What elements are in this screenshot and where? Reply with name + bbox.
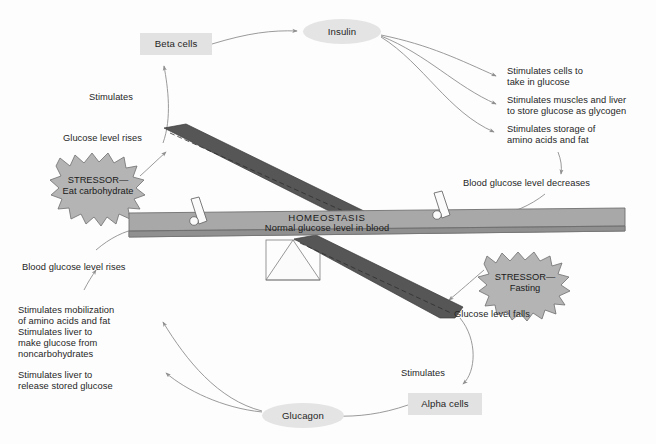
glucagon-effect-2-line2: release stored glucose xyxy=(18,381,113,393)
label-glucose-level-rises: Glucose level rises xyxy=(63,133,142,145)
insulin-effect-2-line2: to store glucose as glycogen xyxy=(507,106,626,118)
insulin-effect-1-line2: take in glucose xyxy=(507,77,570,89)
glucagon-effect-1-line4: make glucose from xyxy=(18,338,97,350)
stressor-carbohydrate-line1: STRESSOR— xyxy=(48,175,148,186)
arrow-alpha-cells-to-glucagon xyxy=(334,405,408,416)
stressor-carbohydrate-line2: Eat carbohydrate xyxy=(48,186,148,197)
arrow-effects-to-blood-glucose-decreases xyxy=(558,152,561,174)
label-blood-glucose-level-decreases: Blood glucose level decreases xyxy=(463,178,590,190)
label-blood-glucose-level-rises: Blood glucose level rises xyxy=(22,262,126,274)
glucagon-effect-1-line2: of amino acids and fat xyxy=(18,316,110,328)
node-alpha-cells[interactable]: Alpha cells xyxy=(408,393,482,415)
beam-hanger-left xyxy=(190,197,207,225)
arrow-glucose-rises-to-beta-cells xyxy=(163,66,168,143)
glucagon-effect-1-line3: Stimulates liver to xyxy=(18,327,92,339)
node-alpha-cells-label: Alpha cells xyxy=(421,399,469,409)
label-glucose-level-falls: Glucose level falls xyxy=(454,309,530,321)
arrow-insulin-to-effect-1 xyxy=(381,35,496,76)
glucagon-effect-1-line1: Stimulates mobilization xyxy=(18,305,114,317)
arrow-beta-cells-to-insulin xyxy=(212,31,297,44)
balance-pointer-lower xyxy=(294,235,463,318)
stressor-fasting-line1: STRESSOR— xyxy=(475,272,575,283)
glucagon-effect-2-line1: Stimulates liver to xyxy=(18,370,92,382)
arrow-glucagon-to-effect-1 xyxy=(163,322,262,411)
node-insulin-label: Insulin xyxy=(328,26,356,37)
label-stimulates-alpha: Stimulates xyxy=(401,368,445,380)
glucagon-effect-1-line5: noncarbohydrates xyxy=(18,349,93,361)
node-insulin[interactable]: Insulin xyxy=(303,19,381,44)
arrow-stressor-carbohydrate-to-pointer xyxy=(140,152,166,176)
node-beta-cells[interactable]: Beta cells xyxy=(140,33,212,55)
node-glucagon-label: Glucagon xyxy=(282,410,324,421)
label-stimulates-beta: Stimulates xyxy=(89,92,133,104)
stressor-fasting-line2: Fasting xyxy=(475,283,575,294)
insulin-effect-1-line1: Stimulates cells to xyxy=(507,66,583,78)
arrow-insulin-to-effect-2 xyxy=(381,36,496,104)
diagram-canvas: Beta cells Alpha cells Insulin Glucagon … xyxy=(0,0,656,444)
arrow-glucose-falls-to-alpha-cells xyxy=(460,318,473,384)
insulin-effect-2-line1: Stimulates muscles and liver xyxy=(507,95,626,107)
insulin-effect-3-line1: Stimulates storage of xyxy=(507,124,595,136)
beam-hanger-right xyxy=(433,191,450,219)
node-beta-cells-label: Beta cells xyxy=(155,39,198,49)
node-glucagon[interactable]: Glucagon xyxy=(262,403,344,428)
insulin-effect-3-line2: amino acids and fat xyxy=(507,135,589,147)
